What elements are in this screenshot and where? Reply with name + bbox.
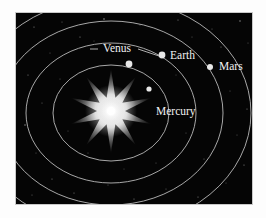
star-dot xyxy=(230,91,231,92)
star-dot xyxy=(42,103,43,104)
star-dot xyxy=(32,195,33,196)
star-dot xyxy=(177,19,178,20)
star-dot xyxy=(186,133,187,134)
star-dot xyxy=(248,43,249,44)
star-dot xyxy=(27,74,28,75)
solar-system-figure: MercuryVenusEarthMars xyxy=(0,0,266,218)
star-dot xyxy=(103,18,104,19)
star-dot xyxy=(68,131,69,132)
star-dot xyxy=(239,20,240,21)
venus-body[interactable] xyxy=(126,61,133,68)
star-dot xyxy=(50,53,51,54)
earth-label: Earth xyxy=(170,49,195,61)
star-dot xyxy=(133,198,134,199)
star-dot xyxy=(73,192,74,193)
star-dot xyxy=(108,185,109,186)
mercury-body[interactable] xyxy=(146,86,151,91)
sun-core xyxy=(98,98,125,125)
star-dot xyxy=(243,164,244,165)
mercury-label: Mercury xyxy=(156,105,196,118)
star-dot xyxy=(94,41,95,42)
star-dot xyxy=(88,153,89,154)
star-dot xyxy=(79,36,80,37)
star-dot xyxy=(197,196,198,197)
star-dot xyxy=(212,29,213,30)
star-dot xyxy=(24,124,25,125)
star-dot xyxy=(237,135,238,136)
sky-panel: MercuryVenusEarthMars xyxy=(15,12,253,205)
star-dot xyxy=(62,22,63,23)
star-dot xyxy=(33,26,34,27)
star-dot xyxy=(124,169,125,170)
solar-system-svg: MercuryVenusEarthMars xyxy=(16,13,252,204)
star-dot xyxy=(203,158,204,159)
mars-label: Mars xyxy=(219,60,243,72)
star-dot xyxy=(192,37,193,38)
star-dot xyxy=(246,108,247,109)
star-dot xyxy=(166,189,167,190)
star-dot xyxy=(60,79,61,80)
star-dot xyxy=(220,46,221,47)
star-dot xyxy=(51,178,52,179)
venus-label: Venus xyxy=(103,42,132,54)
star-dot xyxy=(36,153,37,154)
star-dot xyxy=(156,163,157,164)
star-dot xyxy=(226,183,227,184)
mars-body[interactable] xyxy=(207,64,213,70)
star-dot xyxy=(176,75,177,76)
earth-body[interactable] xyxy=(159,52,166,59)
